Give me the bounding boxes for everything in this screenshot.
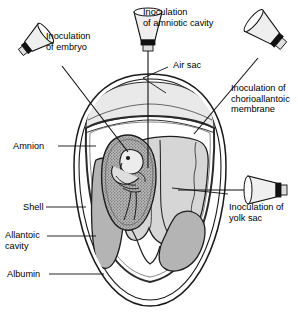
label-inoculation-embryo-line2: of embryo bbox=[46, 42, 87, 52]
egg-inoculation-diagram: Inoculationof embryo Inoculationof amnio… bbox=[0, 0, 308, 322]
label-albumin: Albumin bbox=[7, 269, 40, 280]
label-amnion: Amnion bbox=[13, 141, 44, 152]
label-inoculation-cam-line3: membrane bbox=[231, 104, 275, 114]
label-air-sac: Air sac bbox=[173, 60, 201, 71]
label-inoculation-embryo: Inoculationof embryo bbox=[46, 31, 90, 52]
label-inoculation-yolk-line1: Inoculation of bbox=[229, 202, 284, 212]
label-allantoic-line1: Allantoic bbox=[5, 230, 40, 240]
label-allantoic-cavity: Allantoiccavity bbox=[5, 230, 40, 251]
label-inoculation-yolk-line2: yolk sac bbox=[229, 213, 262, 223]
label-inoculation-amniotic-line1: Inoculation bbox=[143, 7, 187, 17]
label-shell: Shell bbox=[23, 202, 43, 213]
label-allantoic-line2: cavity bbox=[5, 241, 29, 251]
label-inoculation-embryo-line1: Inoculation bbox=[46, 31, 90, 41]
label-inoculation-amniotic-line2: of amniotic cavity bbox=[143, 18, 213, 28]
label-inoculation-cam-line2: chorioallantoic bbox=[231, 94, 290, 104]
label-inoculation-cam-line1: Inoculation of bbox=[231, 83, 286, 93]
label-inoculation-yolk: Inoculation ofyolk sac bbox=[229, 202, 284, 223]
label-inoculation-amniotic: Inoculationof amniotic cavity bbox=[143, 7, 213, 28]
label-inoculation-chorioallantoic: Inoculation ofchorioallantoicmembrane bbox=[231, 83, 290, 115]
